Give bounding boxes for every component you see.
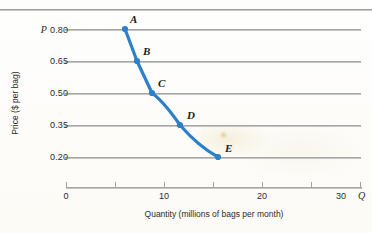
data-point-e <box>215 154 221 160</box>
point-label-b: B <box>143 45 150 57</box>
x-tick-label-30: 30 <box>326 191 356 201</box>
x-tick-label-0: 0 <box>51 191 81 201</box>
data-point-d <box>177 122 183 128</box>
data-point-c <box>149 90 155 96</box>
x-tick-label-20: 20 <box>247 191 277 201</box>
point-label-e: E <box>225 142 232 154</box>
x-axis-title: Quantity (millions of bags per month) <box>66 209 362 219</box>
y-tick-value-080: 0.80 <box>50 25 68 35</box>
point-label-c: C <box>158 77 165 89</box>
demand-curve-path <box>125 29 218 157</box>
data-point-b <box>134 58 140 64</box>
price-symbol: P <box>41 24 47 35</box>
x-tick-label-10: 10 <box>149 191 179 201</box>
plot-area: A B C D E P0.80 0.65 0.50 0.35 0.20 0 10… <box>0 0 372 233</box>
chart-screenshot: A B C D E P0.80 0.65 0.50 0.35 0.20 0 10… <box>0 0 372 233</box>
point-label-a: A <box>130 13 137 25</box>
y-tick-label-020: 0.20 <box>0 152 68 162</box>
y-axis-title: Price ($ per bag) <box>10 57 20 149</box>
quantity-symbol: Q <box>358 190 365 201</box>
y-tick-label-080: P0.80 <box>0 24 68 35</box>
data-point-a <box>122 26 128 32</box>
point-label-d: D <box>187 109 195 121</box>
